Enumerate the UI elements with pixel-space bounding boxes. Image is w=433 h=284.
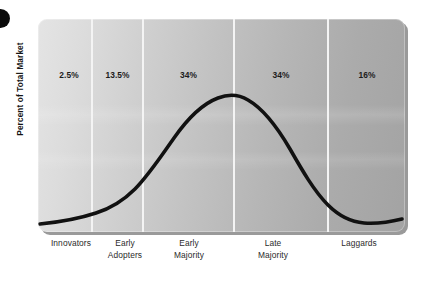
category-label-early-majority: Early Majority bbox=[160, 238, 218, 261]
y-axis-title: Percent of Total Market bbox=[11, 29, 31, 149]
category-label-innovators: Innovators bbox=[40, 238, 102, 250]
category-label-laggards: Laggards bbox=[330, 238, 388, 250]
adoption-curve-figure: Percent of Total Market 2.5% 13.5% 34% 3… bbox=[0, 0, 433, 284]
plot-panel: 2.5% 13.5% 34% 34% 16% bbox=[38, 19, 405, 232]
category-label-late-majority: Late Majority bbox=[244, 238, 302, 261]
adoption-bell-curve bbox=[38, 19, 405, 232]
filled-circle-bullet-icon bbox=[0, 9, 10, 28]
category-label-early-adopters: Early Adopters bbox=[96, 238, 154, 261]
